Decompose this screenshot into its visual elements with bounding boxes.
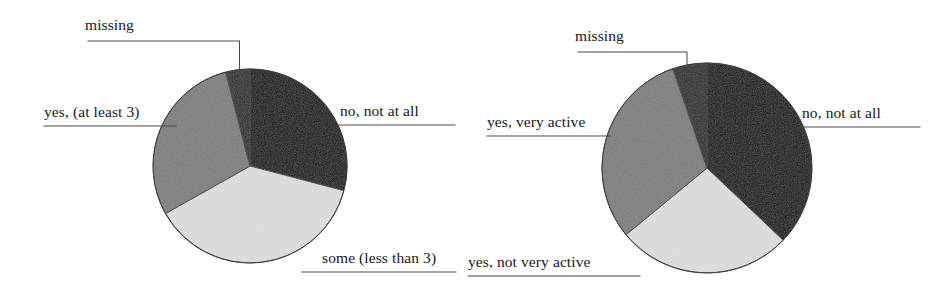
- left-label-yes-at-least-3: yes, (at least 3): [44, 104, 140, 120]
- figure-two-pie-charts: missing yes, (at least 3) no, not at all…: [0, 0, 934, 298]
- right-label-missing: missing: [575, 28, 624, 44]
- right-chart-panel: missing yes, very active no, not at all …: [467, 0, 934, 298]
- right-label-yes-very-active: yes, very active: [487, 114, 585, 130]
- left-label-some-less-than-3: some (less than 3): [322, 250, 436, 266]
- right-label-no-not-at-all: no, not at all: [802, 105, 881, 121]
- left-label-no-not-at-all: no, not at all: [340, 103, 419, 119]
- right-label-yes-not-very-active: yes, not very active: [468, 254, 591, 270]
- left-chart-panel: missing yes, (at least 3) no, not at all…: [0, 0, 467, 298]
- left-label-missing: missing: [85, 17, 134, 33]
